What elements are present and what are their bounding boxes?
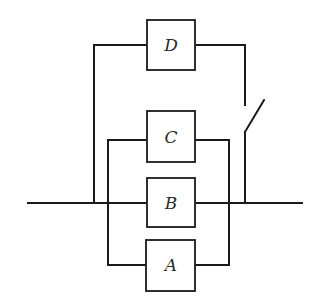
switch [245,100,264,203]
switch-blade [245,100,264,132]
component-a: A [146,240,195,291]
branch-d-left-wire [94,45,147,203]
circuit-diagram: D C B A [0,0,319,303]
component-d: D [147,20,195,70]
component-b-label: B [164,193,178,213]
branch-d-right-wire [195,45,245,105]
component-b: B [147,178,195,227]
component-d-label: D [163,35,178,55]
component-c-label: C [164,127,177,147]
component-c: C [147,111,195,162]
component-a-label: A [163,255,177,275]
